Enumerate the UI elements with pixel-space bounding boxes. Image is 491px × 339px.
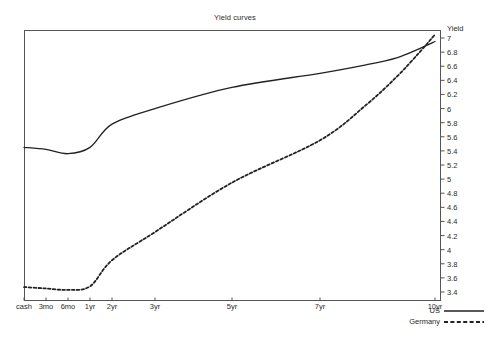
- y-tick-label: 3.4: [447, 288, 457, 297]
- yield-curves-chart: Yield curves Yield 76.86.66.46.265.85.65…: [0, 0, 491, 339]
- legend-label-us: US: [430, 306, 440, 315]
- y-tick-label: 6.6: [447, 62, 457, 71]
- y-tick-label: 6.2: [447, 90, 457, 99]
- y-tick-label: 4.2: [447, 231, 457, 240]
- y-tick-label: 4.6: [447, 203, 457, 212]
- legend-item-us: US: [378, 305, 484, 316]
- y-tick-label: 6.4: [447, 76, 457, 85]
- y-tick-label: 3.8: [447, 259, 457, 268]
- legend-label-germany: Germany: [409, 317, 440, 326]
- legend-swatch-dashed: [444, 318, 484, 326]
- data-series-layer: [24, 34, 435, 289]
- y-tick-label: 6.8: [447, 48, 457, 57]
- x-tick-label: 3mo: [39, 302, 54, 311]
- chart-legend: US Germany: [378, 305, 484, 327]
- y-axis-label: Yield: [447, 24, 463, 33]
- y-tick-label: 7: [447, 34, 451, 43]
- x-tick-label: 6mo: [61, 302, 76, 311]
- series-line-germany: [24, 34, 435, 289]
- y-tick-label: 5.2: [447, 161, 457, 170]
- plot-frame: [25, 31, 441, 301]
- legend-item-germany: Germany: [378, 316, 484, 327]
- y-axis-ticks: [441, 38, 445, 292]
- y-tick-label: 4.8: [447, 189, 457, 198]
- x-tick-label: 2yr: [107, 302, 117, 311]
- x-tick-label: 1yr: [85, 302, 95, 311]
- plot-area: [0, 0, 491, 339]
- x-tick-label: 5yr: [227, 302, 237, 311]
- y-tick-label: 5.8: [447, 118, 457, 127]
- y-tick-label: 5.4: [447, 146, 457, 155]
- y-tick-label: 4: [447, 245, 451, 254]
- y-tick-label: 3.6: [447, 273, 457, 282]
- y-tick-label: 5: [447, 175, 451, 184]
- legend-swatch-solid: [444, 307, 484, 315]
- y-tick-label: 6: [447, 104, 451, 113]
- x-tick-label: 7yr: [315, 302, 325, 311]
- y-tick-label: 4.4: [447, 217, 457, 226]
- y-tick-label: 5.6: [447, 132, 457, 141]
- x-tick-label: 3yr: [150, 302, 160, 311]
- x-tick-label: cash: [16, 302, 32, 311]
